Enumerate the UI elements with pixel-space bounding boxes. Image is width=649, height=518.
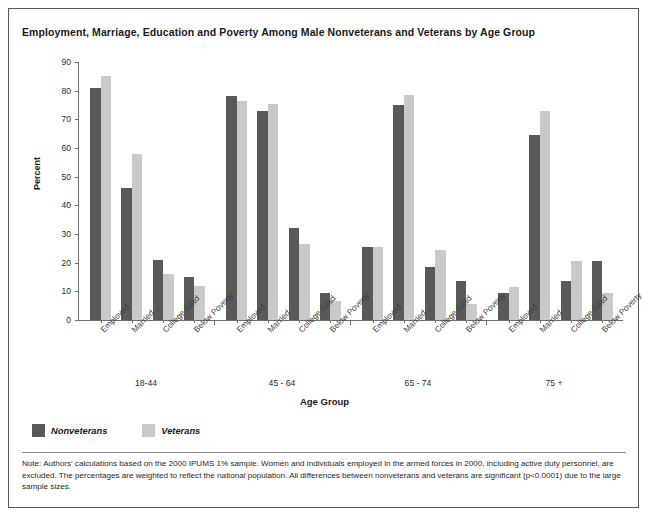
x-axis-tick-mark [571, 320, 572, 323]
legend-item: Nonveterans [32, 424, 107, 437]
legend-label: Veterans [161, 426, 200, 436]
bar-veterans [163, 274, 174, 320]
bar-nonveterans [226, 96, 237, 320]
bar-veterans [404, 95, 415, 320]
chart-title: Employment, Marriage, Education and Pove… [22, 26, 535, 38]
x-axis-group-tick [350, 321, 351, 325]
x-axis-tick-mark [330, 320, 331, 323]
x-axis-tick-mark [404, 320, 405, 323]
legend-label: Nonveterans [51, 426, 107, 436]
x-axis-tick-mark [373, 320, 374, 323]
bar-veterans [540, 111, 551, 320]
x-axis-tick-mark [237, 320, 238, 323]
bar-veterans [571, 261, 582, 320]
y-axis-tick-mark [75, 177, 78, 178]
y-axis-title: Percent [32, 157, 42, 190]
x-axis-group-tick [486, 321, 487, 325]
x-axis-title: Age Group [0, 396, 649, 407]
bar-nonveterans [257, 111, 268, 320]
bar-nonveterans [289, 228, 300, 320]
chart-note: Note: Authors' calculations based on the… [22, 458, 627, 493]
x-axis-tick-mark [194, 320, 195, 323]
y-axis-tick-mark [75, 291, 78, 292]
bar-nonveterans [121, 188, 132, 320]
x-axis-tick-mark [163, 320, 164, 323]
bar-nonveterans [362, 247, 373, 320]
legend-swatch [32, 424, 45, 437]
x-axis-tick-mark [101, 320, 102, 323]
bar-nonveterans [153, 260, 164, 320]
bar-veterans [101, 76, 112, 320]
chart-page: Employment, Marriage, Education and Pove… [0, 0, 649, 518]
x-axis-group-tick [214, 321, 215, 325]
y-axis-tick-mark [75, 205, 78, 206]
x-axis-group-label: 65 - 74 [350, 378, 486, 388]
chart-legend: NonveteransVeterans [32, 424, 226, 437]
bar-nonveterans [529, 135, 540, 320]
bar-veterans [435, 250, 446, 320]
x-axis-tick-mark [299, 320, 300, 323]
x-axis-group-label: 75 + [486, 378, 622, 388]
legend-swatch [142, 424, 155, 437]
x-axis-group-label: 45 - 64 [214, 378, 350, 388]
bar-veterans [268, 104, 279, 320]
y-axis-tick-mark [75, 148, 78, 149]
legend-item: Veterans [142, 424, 200, 437]
y-axis-tick-mark [75, 320, 78, 321]
x-axis-tick-mark [509, 320, 510, 323]
bar-nonveterans [393, 105, 404, 320]
x-axis-tick-mark [602, 320, 603, 323]
y-axis-tick-mark [75, 62, 78, 63]
y-axis-tick-mark [75, 263, 78, 264]
bar-veterans [509, 287, 520, 320]
x-axis-group-label: 18-44 [78, 378, 214, 388]
bar-veterans [132, 154, 143, 320]
x-axis-tick-mark [435, 320, 436, 323]
y-axis-tick-mark [75, 119, 78, 120]
y-axis-tick-mark [75, 234, 78, 235]
y-axis-tick-mark [75, 91, 78, 92]
x-axis-tick-mark [132, 320, 133, 323]
bar-veterans [237, 101, 248, 320]
x-axis-tick-mark [540, 320, 541, 323]
bar-veterans [299, 244, 310, 320]
x-axis-tick-mark [268, 320, 269, 323]
bar-nonveterans [90, 88, 101, 320]
note-divider [22, 452, 626, 453]
plot-area: 0102030405060708090 [78, 62, 622, 320]
bar-veterans [373, 247, 384, 320]
x-axis-tick-mark [466, 320, 467, 323]
